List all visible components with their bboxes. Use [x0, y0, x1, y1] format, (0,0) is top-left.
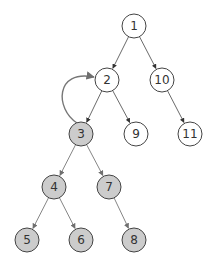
- node-label: 9: [132, 127, 140, 141]
- edge-1-to-2: [113, 37, 129, 69]
- node-label: 7: [105, 180, 113, 194]
- edge-1-to-10: [140, 37, 157, 69]
- edge-3-to-4: [60, 145, 76, 176]
- tree-node-11: 11: [178, 122, 202, 146]
- tree-node-4: 4: [42, 175, 66, 199]
- edge-4-to-5: [33, 198, 49, 229]
- node-label: 4: [50, 180, 58, 194]
- node-label: 2: [103, 73, 111, 87]
- tree-node-1: 1: [122, 14, 146, 38]
- tree-node-2: 2: [95, 68, 119, 92]
- node-label: 10: [154, 73, 169, 87]
- tree-node-8: 8: [122, 228, 146, 252]
- node-label: 1: [130, 19, 138, 33]
- edge-3-to-7: [87, 145, 103, 176]
- edge-2-to-9: [113, 91, 130, 123]
- nodes-layer: 1210391147568: [15, 14, 202, 252]
- edge-10-to-11: [168, 91, 185, 123]
- node-label: 6: [77, 233, 85, 247]
- tree-node-3: 3: [69, 122, 93, 146]
- edge-4-to-6: [59, 198, 75, 229]
- tree-node-5: 5: [15, 228, 39, 252]
- tree-node-7: 7: [97, 175, 121, 199]
- node-label: 8: [130, 233, 138, 247]
- node-label: 11: [182, 127, 197, 141]
- edge-7-to-8: [114, 198, 128, 228]
- tree-node-10: 10: [150, 68, 174, 92]
- edges-layer: [33, 37, 184, 229]
- tree-node-9: 9: [124, 122, 148, 146]
- tree-node-6: 6: [69, 228, 93, 252]
- node-label: 3: [77, 127, 85, 141]
- tree-svg: 1210391147568: [0, 0, 219, 272]
- edge-2-to-3: [87, 91, 102, 123]
- tree-diagram: 1210391147568: [0, 0, 219, 272]
- node-label: 5: [23, 233, 31, 247]
